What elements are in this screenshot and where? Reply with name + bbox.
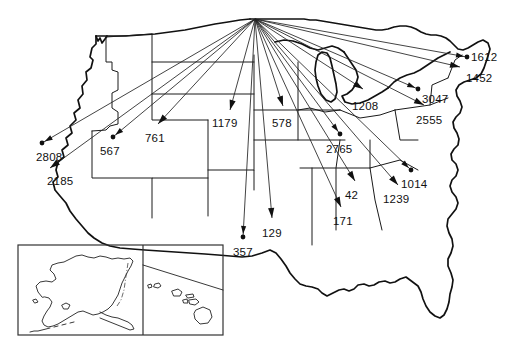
flow-arrowhead xyxy=(268,208,274,218)
flow-arrowhead xyxy=(241,226,246,234)
flow-line xyxy=(243,19,255,237)
boundary-appalachia xyxy=(370,140,382,230)
flow-value-label: 2765 xyxy=(326,143,352,155)
flow-arrow-578: 578 xyxy=(255,19,292,129)
lake-superior-shore xyxy=(275,40,344,52)
flow-value-label: 761 xyxy=(145,132,165,144)
alaska-border-dashed xyxy=(117,263,128,306)
flow-arrow-1208: 1208 xyxy=(255,19,378,112)
flow-value-label: 42 xyxy=(345,189,358,201)
flow-map-figure: 2808218556776111793571295782765171421208… xyxy=(0,0,511,353)
flow-value-label: 2808 xyxy=(36,151,62,163)
flow-value-label: 1208 xyxy=(352,100,378,112)
flow-arrow-1452: 1452 xyxy=(255,19,492,84)
alaska-island-2 xyxy=(33,299,38,303)
flow-arrow-761: 761 xyxy=(145,19,255,144)
boundary-rockies-north xyxy=(152,34,208,120)
hawaii-island-hawaii xyxy=(194,307,212,324)
contiguous-us-outline xyxy=(53,19,490,318)
alaska-island-1 xyxy=(62,303,70,309)
flow-value-label: 1179 xyxy=(212,117,238,129)
flow-endpoint-dot xyxy=(338,132,343,137)
flow-value-label: 129 xyxy=(262,227,282,239)
flow-endpoint-dot xyxy=(465,55,470,60)
flow-line xyxy=(255,19,467,57)
alaska-outline xyxy=(36,255,133,327)
flow-value-label: 2185 xyxy=(47,175,73,187)
boundary-pacific-nw xyxy=(92,37,118,131)
flow-endpoint-dot xyxy=(416,87,421,92)
flow-value-label: 578 xyxy=(272,117,292,129)
flow-endpoint-dot xyxy=(111,135,116,140)
boundary-mid-atlantic xyxy=(395,110,418,140)
hawaii-island-niihau xyxy=(148,284,152,288)
flow-arrowhead xyxy=(334,197,341,207)
flow-value-label: 357 xyxy=(233,246,253,258)
flow-arrowhead xyxy=(277,96,283,106)
flow-arrow-1014: 1014 xyxy=(255,19,428,190)
alaska-aleutians xyxy=(30,322,74,332)
flow-line xyxy=(255,19,418,89)
flow-value-label: 2555 xyxy=(416,114,442,126)
flow-arrowhead xyxy=(45,135,53,141)
map-canvas: 2808218556776111793571295782765171421208… xyxy=(0,0,511,353)
hawaii-island-lanai xyxy=(183,299,188,303)
flow-line xyxy=(255,19,272,218)
flow-arrow-357: 357 xyxy=(233,19,255,258)
alaska-panhandle xyxy=(100,312,134,330)
flow-arrowhead xyxy=(230,100,236,110)
flow-arrow-129: 129 xyxy=(255,19,282,239)
hawaii-island-maui xyxy=(189,299,199,305)
hawaii-island-kauai xyxy=(154,283,161,288)
flow-value-label: 3047 xyxy=(422,93,448,105)
flow-arrow-1179: 1179 xyxy=(212,19,255,129)
hawaii-island-oahu xyxy=(172,289,182,296)
flow-value-label: 1239 xyxy=(383,193,409,205)
us-outline-group xyxy=(53,19,490,318)
flow-arrowhead xyxy=(347,171,355,181)
flow-arrowhead xyxy=(450,62,460,68)
northern-border-west xyxy=(96,19,250,36)
lake-huron-erie-shore xyxy=(342,52,388,104)
flow-arrows-group: 2808218556776111793571295782765171421208… xyxy=(36,19,497,258)
flow-arrow-2765: 2765 xyxy=(255,19,352,155)
puget-sound-notch xyxy=(96,36,107,43)
flow-value-label: 1452 xyxy=(466,72,492,84)
flow-value-label: 171 xyxy=(333,215,353,227)
flow-arrowhead xyxy=(331,124,338,132)
flow-arrowhead xyxy=(456,53,464,58)
flow-value-label: 1014 xyxy=(401,178,428,190)
flow-value-label: 567 xyxy=(100,145,120,157)
flow-line xyxy=(255,19,355,181)
flow-line xyxy=(255,19,424,105)
flow-value-label: 1612 xyxy=(471,51,497,63)
inset-group xyxy=(18,245,223,335)
flow-arrow-567: 567 xyxy=(100,19,255,157)
flow-endpoint-dot xyxy=(241,235,246,240)
flow-endpoint-dot xyxy=(409,168,414,173)
hawaii-connector-line xyxy=(143,265,223,290)
hawaii-island-molokai xyxy=(186,294,194,298)
flow-endpoint-dot xyxy=(40,141,45,146)
boundary-texas-panhandle xyxy=(208,170,254,190)
flow-arrowhead xyxy=(407,82,415,88)
boundary-plains-vertical xyxy=(152,178,208,218)
